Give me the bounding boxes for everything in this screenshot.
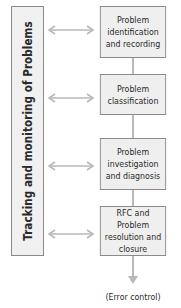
double-arrow-icon	[49, 162, 93, 170]
arrows-layer	[0, 0, 181, 308]
double-arrow-icon	[49, 94, 93, 102]
double-arrow-icon	[49, 26, 93, 34]
double-arrow-icon	[49, 230, 93, 238]
error-control-label: (Error control)	[100, 291, 166, 302]
down-arrow-icon	[128, 256, 138, 284]
